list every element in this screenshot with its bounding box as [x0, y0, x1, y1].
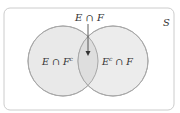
universe-label: S — [163, 17, 170, 28]
intersection-label: E ∩ F — [74, 12, 105, 23]
right-region-label: Ec ∩ F — [101, 55, 133, 67]
venn-diagram: S E ∩ F E ∩ Fc Ec ∩ F — [0, 0, 180, 113]
left-region-label: E ∩ Fc — [41, 55, 74, 67]
